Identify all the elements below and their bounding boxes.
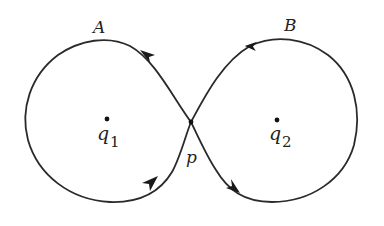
label-b: B	[283, 15, 297, 35]
label-q2: q	[269, 122, 281, 144]
arrow-lower-left-icon	[142, 176, 158, 191]
label-q1-subscript: 1	[110, 133, 120, 151]
diagram-svg: A B p q 1 q 2	[0, 0, 384, 226]
figure-eight-diagram: A B p q 1 q 2	[0, 0, 384, 226]
label-q2-subscript: 2	[282, 133, 292, 151]
label-q1: q	[97, 122, 109, 144]
label-a: A	[91, 17, 105, 37]
charge-q1-dot	[105, 117, 110, 122]
label-p: p	[186, 147, 197, 167]
loop-b-path	[191, 39, 357, 202]
point-p-dot	[189, 120, 194, 125]
